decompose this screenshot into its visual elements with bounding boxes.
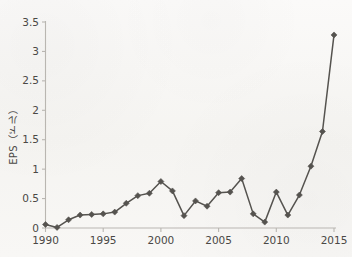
chart-figure: 00.511.522.533.5 19901995200020052010201… [0,0,352,257]
data-point-marker [319,128,325,134]
x-axis-tick-labels: 199019952000200520102015 [32,234,347,246]
data-point-marker [273,189,279,195]
x-tick-label: 2010 [263,234,290,246]
data-point-marker [77,212,83,218]
eps-line-chart: 00.511.522.533.5 19901995200020052010201… [0,0,352,257]
data-point-marker [100,211,106,217]
data-point-marker [285,212,291,218]
series-line-eps [46,35,335,227]
y-tick-label: 3.5 [22,16,39,28]
data-point-marker [296,192,302,198]
x-tick-label: 2000 [148,234,175,246]
y-tick-label: 1.5 [22,133,39,145]
axes [42,21,336,232]
y-axis-tick-labels: 00.511.522.533.5 [22,16,39,234]
y-tick-label: 2 [32,104,39,116]
x-tick-label: 1995 [90,234,117,246]
data-series-eps [43,32,338,230]
y-tick-label: 3 [32,45,39,57]
y-tick-label: 0 [32,222,39,234]
x-tick-label: 1990 [32,234,59,246]
data-point-marker [308,163,314,169]
y-tick-label: 0.5 [22,192,39,204]
x-axis-ticks [46,228,335,232]
data-point-marker [331,32,337,38]
series-markers-eps [43,32,338,230]
x-tick-label: 2015 [321,234,348,246]
y-tick-label: 1 [32,163,39,175]
x-tick-label: 2005 [205,234,232,246]
y-tick-label: 2.5 [22,74,39,86]
data-point-marker [43,221,49,227]
data-point-marker [89,211,95,217]
